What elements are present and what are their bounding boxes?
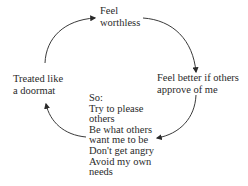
arrow-so-to-doormat [46,104,86,137]
arrow-doormat-to-worthless [45,18,95,63]
node-feel-better-if-approved: Feel better if others approve of me [157,72,239,95]
node-so-behaviors: So: Try to please others Be what others … [89,93,154,178]
node-line: Feel [100,5,140,17]
node-feel-worthless: Feel worthless [100,5,140,28]
node-line: Treated like [13,73,63,85]
node-line: a doormat [13,85,63,97]
node-line: Don't get angry [89,146,154,157]
node-line: Feel better if others [157,72,239,84]
node-line: worthless [100,17,140,29]
node-line: needs [89,167,154,178]
arrow-worthless-to-approval [143,18,196,72]
arrow-approval-to-so [157,95,196,138]
node-line: So: [89,93,154,104]
node-line: approve of me [157,84,239,96]
node-treated-like-doormat: Treated like a doormat [13,73,63,96]
